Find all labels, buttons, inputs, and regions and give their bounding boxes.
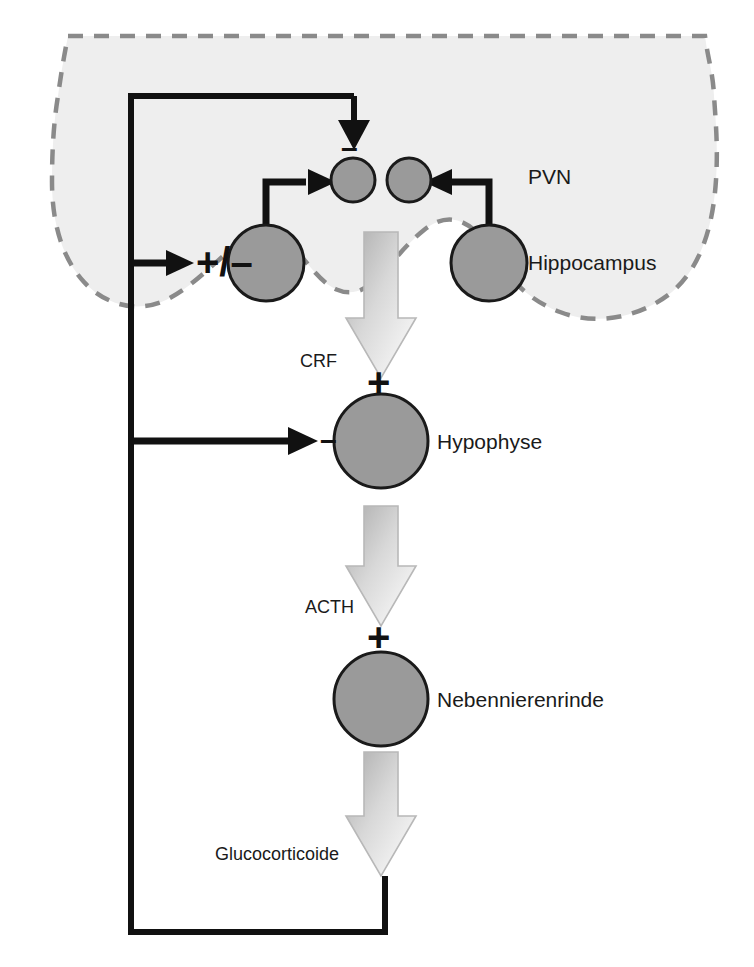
- diagram-canvas: PVN Hippocampus Hypophyse Nebennierenrin…: [0, 0, 754, 967]
- sign-hippocampus-modulation: +/–: [196, 242, 253, 282]
- nebennierenrinde-cell: [334, 652, 428, 746]
- glucocorticoid-gradient-arrow: [346, 752, 416, 876]
- pvn-neuron-left: [331, 158, 375, 202]
- sign-hypophyse-inhibition: –: [320, 425, 337, 455]
- sign-crf-stimulation: +: [367, 362, 390, 402]
- sign-acth-stimulation: +: [367, 617, 390, 657]
- label-acth: ACTH: [305, 598, 354, 616]
- feedback-hypophyse-arrowhead: [288, 427, 318, 455]
- label-glucocorticoide: Glucocorticoide: [215, 845, 339, 863]
- hippocampus-cell-right: [451, 225, 527, 301]
- label-pvn: PVN: [528, 166, 571, 187]
- hpa-axis-diagram: [0, 0, 754, 967]
- pvn-neuron-right: [387, 158, 431, 202]
- hypophyse-cell: [334, 394, 428, 488]
- label-hippocampus: Hippocampus: [528, 252, 656, 273]
- label-nebennierenrinde: Nebennierenrinde: [437, 689, 604, 710]
- acth-gradient-arrow: [346, 506, 416, 626]
- sign-pvn-inhibition: –: [341, 133, 358, 163]
- label-crf: CRF: [300, 352, 337, 370]
- label-hypophyse: Hypophyse: [437, 431, 542, 452]
